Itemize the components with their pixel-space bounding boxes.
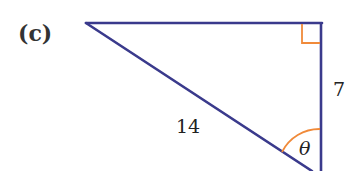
- right-angle-marker: [302, 24, 320, 43]
- triangle-diagram: [0, 0, 349, 171]
- part-label: (c): [18, 20, 52, 46]
- hypotenuse-length-label-14: 14: [176, 115, 200, 137]
- hypotenuse-14: [86, 23, 312, 171]
- angle-label-theta: θ: [299, 137, 310, 159]
- side-length-label-7: 7: [333, 78, 345, 100]
